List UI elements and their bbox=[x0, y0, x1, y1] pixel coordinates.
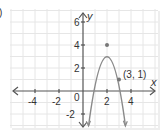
part-marker: ) bbox=[0, 7, 2, 18]
vertex-point bbox=[105, 43, 109, 47]
parabola-graph: ) bbox=[0, 0, 163, 139]
y-tick-label: 6 bbox=[74, 17, 80, 28]
y-tick-label: -2 bbox=[66, 109, 75, 120]
point-3-1 bbox=[117, 78, 121, 82]
x-tick-label: 2 bbox=[104, 96, 110, 107]
x-tick-label: -4 bbox=[28, 96, 37, 107]
x-tick-label: -2 bbox=[52, 96, 61, 107]
y-tick-label: 4 bbox=[74, 40, 80, 51]
x-axis-label: x bbox=[150, 76, 157, 88]
point-label: (3, 1) bbox=[123, 69, 146, 80]
x-tick-label: 4 bbox=[128, 96, 134, 107]
y-tick-label: 2 bbox=[74, 63, 80, 74]
origin-label: 0 bbox=[74, 92, 80, 103]
